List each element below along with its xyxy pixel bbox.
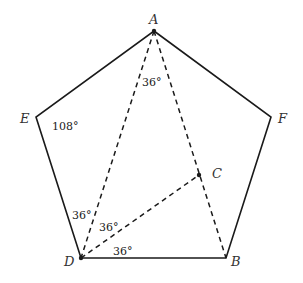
label-B: B <box>230 254 241 269</box>
segment-DC <box>81 175 199 258</box>
label-A: A <box>148 12 158 27</box>
segment-AB <box>154 31 226 258</box>
pentagon-outline <box>36 31 271 258</box>
angle-label-D-lower: 36° <box>113 245 133 258</box>
label-E: E <box>19 111 30 126</box>
label-D: D <box>63 254 75 269</box>
point-C <box>197 173 201 177</box>
label-F: F <box>277 111 288 126</box>
angle-label-A: 36° <box>142 76 162 89</box>
angle-label-D-upper: 36° <box>72 209 92 222</box>
angle-label-E: 108° <box>52 120 79 133</box>
pentagon-diagram: A F B D E C 36° 108° 36° 36° 36° <box>0 0 303 283</box>
angle-label-D-middle: 36° <box>99 221 119 234</box>
label-C: C <box>212 166 222 181</box>
point-A <box>152 29 156 33</box>
point-D <box>79 256 83 260</box>
